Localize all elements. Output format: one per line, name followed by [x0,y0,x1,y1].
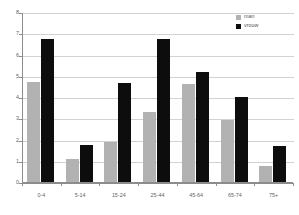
y-axis-tick-label: 5 [8,74,19,79]
bar-vrouw-75+ [273,146,286,182]
x-axis-tick-mark [22,183,23,186]
y-axis-tick-label: 4 [8,95,19,100]
bar-group [178,12,217,182]
legend-label: vrouw [244,23,258,28]
x-axis-tick-label: 25-44 [138,193,178,198]
x-axis-tick-mark [293,183,294,186]
x-axis-tick-mark [177,183,178,186]
plot-area [22,13,293,183]
x-axis-tick-mark [99,183,100,186]
x-axis-tick-label: 15-24 [99,193,139,198]
y-axis-tick-label: 0 [8,180,19,185]
bar-vrouw-15-24 [118,83,131,182]
bar-vrouw-65-74 [235,97,248,182]
bar-man-15-24 [104,142,117,182]
legend-swatch-icon [236,24,241,29]
x-axis-tick-label: 65-74 [215,193,255,198]
bar-vrouw-0-4 [41,39,54,182]
bar-vrouw-25-44 [157,39,170,182]
x-axis-tick-mark [254,183,255,186]
y-axis-tick-label: 3 [8,116,19,121]
legend-item-man: man [236,13,288,21]
bar-man-25-44 [143,112,156,182]
x-axis-tick-label: 45-64 [176,193,216,198]
bar-group [217,12,256,182]
bar-chart: 012345678 0-45-1415-2425-4445-6465-7475+… [0,0,299,215]
bar-group [255,12,294,182]
x-axis-tick-label: 75+ [254,193,294,198]
y-axis-tick-label: 1 [8,159,19,164]
bar-man-45-64 [182,84,195,182]
bar-man-65-74 [221,120,234,182]
legend-swatch-icon [236,15,241,20]
bar-man-5-14 [66,159,79,182]
x-axis-tick-mark [216,183,217,186]
y-axis-tick-label: 8 [8,10,19,15]
bar-vrouw-45-64 [196,72,209,183]
bar-vrouw-5-14 [80,145,93,182]
bar-man-0-4 [27,82,40,182]
bar-group [100,12,139,182]
y-axis-tick-label: 6 [8,53,19,58]
bar-group [139,12,178,182]
x-axis-tick-label: 0-4 [21,193,61,198]
bar-group [62,12,101,182]
x-axis-tick-mark [61,183,62,186]
bar-man-75+ [259,166,272,182]
x-axis-tick-label: 5-14 [60,193,100,198]
y-axis-tick-label: 7 [8,31,19,36]
legend: manvrouw [232,11,290,33]
legend-item-vrouw: vrouw [236,22,288,30]
bar-group [23,12,62,182]
y-axis-tick-label: 2 [8,138,19,143]
legend-label: man [244,14,255,19]
x-axis-tick-mark [138,183,139,186]
